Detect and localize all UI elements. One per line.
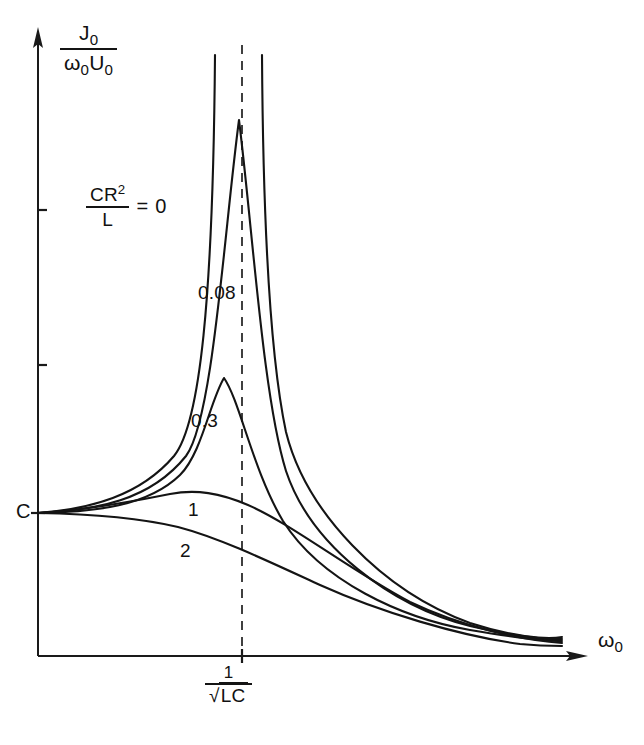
y-axis-origin-label-c: C bbox=[16, 501, 31, 522]
curve-label-2: 2 bbox=[180, 541, 191, 561]
curve-damping-0_3 bbox=[38, 378, 562, 641]
curve-label-0_3: 0.3 bbox=[191, 411, 218, 431]
y-axis-label-denominator: ω0U0 bbox=[60, 50, 117, 77]
y-axis-group bbox=[31, 27, 47, 656]
parameter-label-numerator: CR2 bbox=[86, 183, 129, 208]
curve-damping-0-left-branch bbox=[38, 55, 215, 513]
x-axis-group bbox=[38, 649, 588, 663]
x-axis-label-subscript: 0 bbox=[615, 638, 624, 655]
parameter-label-denominator: L bbox=[86, 208, 129, 230]
x-tick-label-fraction: 1 √LC bbox=[205, 664, 252, 706]
sqrt-icon: √LC bbox=[209, 686, 248, 706]
y-axis-label: J0 ω0U0 bbox=[60, 22, 117, 78]
parameter-label-fraction: CR2 L bbox=[86, 183, 129, 230]
y-axis-numerator-subscript: 0 bbox=[90, 31, 99, 48]
x-axis-label-symbol: ω bbox=[598, 628, 615, 651]
parameter-label-value: 0 bbox=[155, 196, 166, 217]
chart-canvas bbox=[0, 0, 644, 745]
x-axis-label: ω0 bbox=[598, 629, 623, 654]
x-tick-label-radicand: LC bbox=[219, 682, 249, 706]
resonance-chart-figure: J0 ω0U0 CR2 L = 0 0.08 0.3 1 2 C 1 √LC ω… bbox=[0, 0, 644, 745]
y-axis-denominator-u: U bbox=[89, 51, 104, 74]
curves-group bbox=[38, 55, 562, 646]
y-axis-label-numerator: J0 bbox=[60, 22, 117, 50]
y-axis-denominator-omega-subscript: 0 bbox=[81, 62, 90, 79]
x-tick-label-denominator: √LC bbox=[205, 685, 252, 706]
parameter-label-equals: = bbox=[136, 196, 148, 217]
parameter-label: CR2 L = 0 bbox=[86, 183, 167, 230]
x-axis-tick-label-resonance: 1 √LC bbox=[205, 664, 252, 706]
curve-label-1: 1 bbox=[188, 500, 199, 520]
y-axis-denominator-omega: ω bbox=[64, 51, 81, 74]
curve-label-0_08: 0.08 bbox=[198, 283, 236, 303]
curve-damping-1 bbox=[38, 492, 562, 643]
parameter-numerator-exponent: 2 bbox=[118, 182, 126, 197]
y-axis-numerator-symbol: J bbox=[79, 21, 90, 44]
y-axis-label-fraction: J0 ω0U0 bbox=[60, 22, 117, 78]
y-axis-denominator-u-subscript: 0 bbox=[105, 62, 114, 79]
parameter-numerator-symbol: CR bbox=[90, 184, 118, 205]
